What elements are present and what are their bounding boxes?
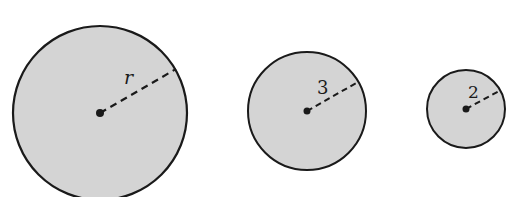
radius-label: 3	[317, 77, 328, 98]
circle-2: 2	[427, 70, 505, 148]
radius-label: 2	[468, 82, 479, 102]
center-dot	[96, 109, 104, 117]
circle-3: 3	[248, 52, 366, 170]
circles-diagram: r 3 2	[0, 0, 511, 197]
circle-r: r	[13, 26, 187, 197]
center-dot	[304, 108, 311, 115]
center-dot	[463, 106, 470, 113]
